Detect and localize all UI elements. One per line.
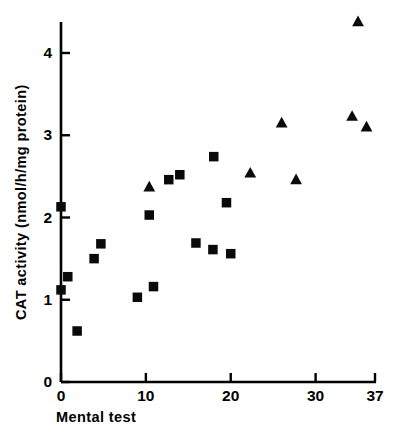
data-point-square-1 xyxy=(63,272,72,282)
series-triangles xyxy=(143,16,372,192)
y-tick-label-4: 4 xyxy=(43,44,52,61)
data-point-square-9 xyxy=(164,175,174,185)
data-point-square-14 xyxy=(226,249,236,259)
x-tick-label-0: 0 xyxy=(57,387,66,404)
data-point-square-13 xyxy=(208,245,218,255)
data-point-triangle-0 xyxy=(143,181,155,192)
y-tick-label-3: 3 xyxy=(43,126,52,143)
y-axis-title: CAT activity (nmol/h/mg protein) xyxy=(13,84,29,320)
data-point-square-3 xyxy=(72,326,82,336)
plot-axes xyxy=(61,22,376,382)
data-point-triangle-1 xyxy=(244,167,256,178)
series-squares xyxy=(56,152,235,336)
data-point-square-12 xyxy=(191,238,201,248)
x-tick-label-10: 10 xyxy=(137,387,154,404)
plot-canvas: 01234 010203037 Mental test CAT activity… xyxy=(0,0,393,433)
data-point-square-8 xyxy=(149,282,159,292)
data-point-triangle-6 xyxy=(361,121,373,132)
data-markers-layer xyxy=(56,16,372,336)
data-point-square-6 xyxy=(133,293,143,303)
y-tick-label-1: 1 xyxy=(43,291,52,308)
data-point-square-0 xyxy=(56,202,66,212)
y-tick-label-2: 2 xyxy=(43,209,52,226)
data-point-square-15 xyxy=(222,198,232,208)
data-point-square-7 xyxy=(145,210,155,220)
data-point-square-5 xyxy=(96,239,106,249)
data-point-square-2 xyxy=(56,285,66,295)
x-tick-label-30: 30 xyxy=(307,387,324,404)
x-axis-ticks: 010203037 xyxy=(57,373,384,404)
data-point-triangle-2 xyxy=(276,117,288,128)
x-tick-label-20: 20 xyxy=(222,387,239,404)
y-tick-label-0: 0 xyxy=(43,373,52,390)
data-point-square-11 xyxy=(209,152,219,162)
data-point-triangle-3 xyxy=(290,173,302,184)
data-point-triangle-5 xyxy=(352,16,364,27)
scatter-plot-figure: 01234 010203037 Mental test CAT activity… xyxy=(0,0,393,433)
data-point-square-4 xyxy=(89,254,99,264)
data-point-triangle-4 xyxy=(346,110,358,121)
x-tick-label-37: 37 xyxy=(366,387,383,404)
x-axis-title: Mental test xyxy=(56,409,136,425)
data-point-square-10 xyxy=(175,170,185,180)
y-axis-ticks: 01234 xyxy=(43,44,70,390)
